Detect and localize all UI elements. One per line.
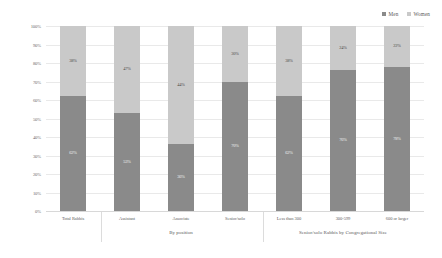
bar-slot: 22%78%	[370, 26, 424, 211]
legend-swatch-women	[407, 12, 411, 16]
bar-label-women: 38%	[69, 59, 77, 63]
y-axis-tick-label: 80%	[33, 61, 41, 66]
group-label: Senior/solo Rabbis by Congregational Siz…	[262, 226, 424, 242]
legend-label-men: Men	[389, 11, 399, 17]
group-label: By position	[100, 226, 262, 242]
bar-label-women: 24%	[339, 46, 347, 50]
axis-separator-1	[101, 212, 102, 242]
bar-slot: 38%62%	[46, 26, 100, 211]
group-label	[46, 226, 100, 242]
legend-item-women: Women	[407, 11, 430, 17]
bar-segment-men[interactable]: 62%	[276, 96, 302, 211]
bar-label-men: 53%	[123, 160, 131, 164]
bar-label-men: 36%	[177, 175, 185, 179]
category-axis: Total RabbisAssistantAssociateSenior/sol…	[46, 212, 424, 226]
bar-segment-women[interactable]: 44%	[168, 26, 194, 144]
stacked-bar[interactable]: 44%36%	[168, 26, 194, 211]
bar-label-women: 38%	[285, 59, 293, 63]
y-axis-tick-label: 50%	[33, 116, 41, 121]
bar-segment-men[interactable]: 70%	[222, 82, 248, 212]
chart-legend: Men Women	[382, 11, 430, 17]
stacked-bar[interactable]: 38%62%	[276, 26, 302, 211]
category-label: Assistant	[100, 212, 154, 226]
y-axis-tick-label: 90%	[33, 42, 41, 47]
category-label: 300-599	[316, 212, 370, 226]
bar-segment-women[interactable]: 30%	[222, 26, 248, 82]
bar-slot: 47%53%	[100, 26, 154, 211]
bar-label-women: 30%	[231, 52, 239, 56]
category-label: Associate	[154, 212, 208, 226]
bar-segment-men[interactable]: 76%	[330, 70, 356, 211]
bar-segment-men[interactable]: 78%	[384, 67, 410, 211]
y-axis-tick-label: 20%	[33, 172, 41, 177]
bar-segment-men[interactable]: 36%	[168, 144, 194, 211]
category-label: Senior/solo	[208, 212, 262, 226]
bar-label-men: 70%	[231, 144, 239, 148]
bar-slot: 30%70%	[208, 26, 262, 211]
bar-slot: 24%76%	[316, 26, 370, 211]
axis-separator-2	[263, 212, 264, 242]
category-label: 600 or larger	[370, 212, 424, 226]
bar-label-women: 44%	[177, 83, 185, 87]
category-label: Total Rabbis	[46, 212, 100, 226]
y-axis-tick-label: 0%	[35, 209, 41, 214]
stacked-bar[interactable]: 30%70%	[222, 26, 248, 211]
legend-label-women: Women	[413, 11, 430, 17]
bar-segment-women[interactable]: 38%	[60, 26, 86, 96]
y-axis-tick-label: 40%	[33, 135, 41, 140]
bar-segment-men[interactable]: 62%	[60, 96, 86, 211]
bar-series-container: 38%62%47%53%44%36%30%70%38%62%24%76%22%7…	[46, 26, 424, 211]
bar-segment-women[interactable]: 47%	[114, 26, 140, 113]
group-axis: By positionSenior/solo Rabbis by Congreg…	[46, 226, 424, 242]
bar-slot: 44%36%	[154, 26, 208, 211]
y-axis-tick-label: 60%	[33, 98, 41, 103]
bar-segment-women[interactable]: 24%	[330, 26, 356, 70]
bar-label-men: 62%	[285, 151, 293, 155]
bar-slot: 38%62%	[262, 26, 316, 211]
stacked-bar[interactable]: 24%76%	[330, 26, 356, 211]
bar-segment-women[interactable]: 22%	[384, 26, 410, 67]
y-axis-tick-label: 30%	[33, 153, 41, 158]
category-label: Less than 300	[262, 212, 316, 226]
y-axis-tick-label: 100%	[31, 24, 41, 29]
legend-swatch-men	[382, 12, 386, 16]
stacked-bar-chart: Men Women 100%90%80%70%60%50%40%30%20%10…	[0, 0, 442, 258]
plot-area: 100%90%80%70%60%50%40%30%20%10%0% 38%62%…	[46, 26, 424, 211]
stacked-bar[interactable]: 22%78%	[384, 26, 410, 211]
stacked-bar[interactable]: 47%53%	[114, 26, 140, 211]
bar-label-women: 22%	[393, 44, 401, 48]
stacked-bar[interactable]: 38%62%	[60, 26, 86, 211]
bar-label-men: 76%	[339, 138, 347, 142]
bar-segment-women[interactable]: 38%	[276, 26, 302, 96]
bar-segment-men[interactable]: 53%	[114, 113, 140, 211]
bar-label-men: 62%	[69, 151, 77, 155]
bar-label-men: 78%	[393, 137, 401, 141]
y-axis-tick-label: 70%	[33, 79, 41, 84]
legend-item-men: Men	[382, 11, 398, 17]
bar-label-women: 47%	[123, 67, 131, 71]
y-axis-tick-label: 10%	[33, 190, 41, 195]
